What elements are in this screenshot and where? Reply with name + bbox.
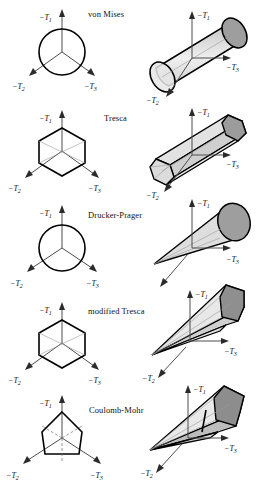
axis-label-t3: −T3 xyxy=(84,82,97,92)
axis-label-t3: −T3 xyxy=(224,444,237,454)
irregular-pyramid xyxy=(150,386,244,450)
axis-label-t1: −T1 xyxy=(39,209,52,219)
axis-label-t2: −T2 xyxy=(12,82,25,92)
axis-label-t2-prev-row: −T2 xyxy=(140,81,200,111)
svg-text:−T2: −T2 xyxy=(146,191,159,201)
principal-space-modified-tresca: −T1 −T3 −T2 xyxy=(140,277,260,381)
pi-plane-coulomb-mohr: −T1 −T2 −T3 xyxy=(6,388,126,480)
axis-label-t2: −T2 xyxy=(140,469,153,479)
axis-label-t3: −T3 xyxy=(226,255,239,265)
axes-group xyxy=(25,110,99,178)
axis-label-t1: −T1 xyxy=(197,11,210,21)
row-modified-tresca: modified Tresca −T1 −T2 −T3 xyxy=(0,285,260,380)
arrow-t3-icon xyxy=(221,338,229,344)
arrow-t3-icon xyxy=(91,170,99,178)
arrow-t2-icon xyxy=(27,264,35,272)
arrow-t2-icon xyxy=(25,362,33,370)
pi-plane-drucker-prager: −T1 −T2 −T3 xyxy=(6,198,126,288)
arrow-t1-icon xyxy=(185,385,191,393)
principal-space-coulomb-mohr: −T1 −T3 −T2 xyxy=(140,380,260,476)
arrow-t2-icon xyxy=(29,68,37,76)
arrow-t3-icon xyxy=(223,55,231,61)
arrow-t3-icon xyxy=(93,456,101,464)
pi-plane-modified-tresca: −T1 −T2 −T3 xyxy=(6,293,126,385)
row-drucker-prager: Drucker-Prager −T1 −T2 −T3 xyxy=(0,190,260,285)
arrow-t3-icon xyxy=(89,264,97,272)
arrow-t1-icon xyxy=(189,11,195,19)
axis-label-t1: −T1 xyxy=(39,306,52,316)
principal-space-drucker-prager: −T1 −T3 xyxy=(140,192,260,287)
axis-label-t1: −T1 xyxy=(39,13,52,23)
arrow-t1-icon xyxy=(59,395,65,403)
axis-label-t1: −T1 xyxy=(195,290,208,300)
arrow-t3-icon xyxy=(87,68,95,76)
row-tresca: Tresca −T1 −T2 −T3 xyxy=(0,95,260,190)
pi-plane-von-mises: −T1 −T2 −T3 xyxy=(6,4,126,94)
arrow-t2-icon xyxy=(25,170,33,178)
arrow-t3-icon xyxy=(221,435,229,441)
arrow-t1-icon xyxy=(59,110,65,118)
arrow-t3-icon xyxy=(91,362,99,370)
arrow-t3-icon xyxy=(223,152,231,158)
row-coulomb-mohr: Coulomb-Mohr −T1 −T2 −T3 xyxy=(0,380,260,477)
arrow-t1-icon xyxy=(59,9,65,17)
axes-group xyxy=(27,205,97,272)
axis-label-t3: −T3 xyxy=(226,160,239,170)
axis-label-t2-prev-row: −T2 xyxy=(140,178,200,206)
pi-plane-tresca: −T1 −T2 −T3 xyxy=(6,101,126,193)
axis-label-t1: −T1 xyxy=(193,385,206,395)
axis-label-t1: −T1 xyxy=(39,399,52,409)
axis-label-t3: −T3 xyxy=(90,471,103,480)
arrow-t1-icon xyxy=(59,205,65,213)
arrow-t3-icon xyxy=(223,245,231,251)
axes-group xyxy=(25,302,99,370)
row-von-mises: von Mises −T1 −T2 −T3 xyxy=(0,0,260,95)
axis-label-t3: −T3 xyxy=(224,347,237,357)
arrow-t2-icon xyxy=(23,456,31,464)
cone-body xyxy=(154,199,255,264)
hexagonal-prism xyxy=(150,115,246,185)
axis-label-t1: −T1 xyxy=(39,114,52,124)
pyramid-cap xyxy=(214,386,244,426)
axis-label-t2: −T2 xyxy=(6,471,19,480)
arrow-t1-icon xyxy=(59,302,65,310)
axis-label-t3: −T3 xyxy=(226,63,239,73)
arrow-t1-icon xyxy=(187,290,193,298)
svg-text:−T2: −T2 xyxy=(146,96,159,106)
